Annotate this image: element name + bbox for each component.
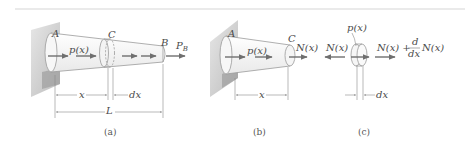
element-right-face <box>357 44 367 66</box>
axial-bar-figure: A p(x) C B PB x dx L (a) A p(x) C N(x) <box>0 0 467 144</box>
svg-text:x: x <box>79 89 85 100</box>
svg-text:A: A <box>227 28 235 39</box>
svg-text:N(x) +: N(x) + <box>376 42 411 53</box>
svg-text:dx: dx <box>129 89 141 100</box>
label-c: C <box>108 29 116 40</box>
panel-a: A p(x) C B PB x dx L (a) <box>31 22 188 137</box>
svg-text:N(x): N(x) <box>295 42 318 53</box>
panel-b: A p(x) C N(x) x (b) <box>210 20 318 137</box>
label-a: A <box>51 28 59 39</box>
panel-c: N(x) p(x) N(x) + d dx N(x) dx (c) <box>325 22 444 137</box>
caption-a: (a) <box>104 127 116 137</box>
svg-text:N(x): N(x) <box>421 42 444 53</box>
svg-text:C: C <box>288 33 296 44</box>
svg-text:L: L <box>105 105 113 116</box>
figure-canvas: A p(x) C B PB x dx L (a) A p(x) C N(x) <box>0 0 467 144</box>
svg-text:p(x): p(x) <box>247 45 267 56</box>
caption-b: (b) <box>253 127 266 137</box>
svg-text:N(x): N(x) <box>325 42 348 53</box>
cut-face-c <box>285 45 295 66</box>
label-pb: PB <box>175 40 188 53</box>
svg-text:dx: dx <box>408 48 420 59</box>
caption-c: (c) <box>358 127 370 137</box>
svg-text:x: x <box>259 89 265 100</box>
bar-end-a <box>220 36 232 74</box>
element-left-face <box>100 39 109 67</box>
label-px: p(x) <box>69 44 89 55</box>
svg-text:p(x): p(x) <box>347 22 367 33</box>
svg-text:dx: dx <box>376 89 388 100</box>
svg-text:d: d <box>412 36 418 47</box>
label-b: B <box>160 37 168 48</box>
